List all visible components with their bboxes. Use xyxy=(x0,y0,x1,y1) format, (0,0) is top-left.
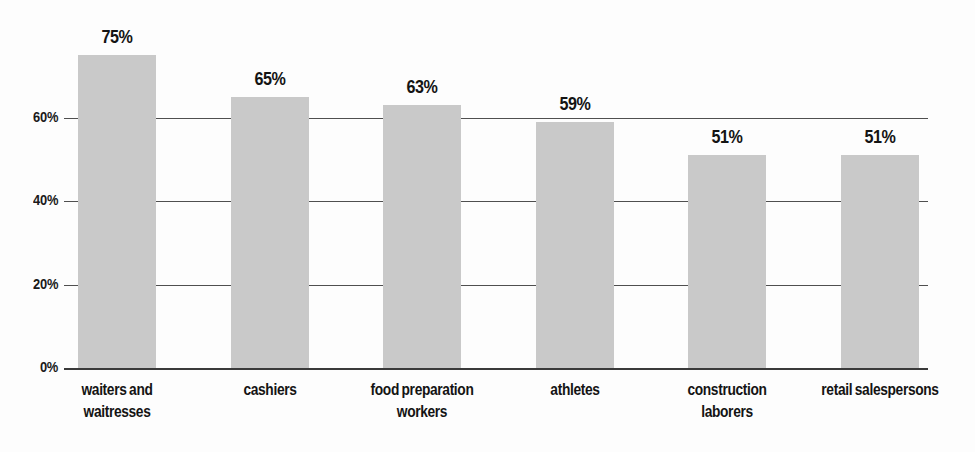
y-axis-tick-label: 0% xyxy=(40,358,58,375)
x-axis-category-label-line: cashiers xyxy=(205,379,334,401)
bar xyxy=(841,155,919,368)
bar xyxy=(688,155,766,368)
gridline xyxy=(64,118,928,119)
y-axis-tick-label: 60% xyxy=(33,108,58,125)
bar-value-label: 63% xyxy=(372,76,472,98)
x-axis-category-label-line: athletes xyxy=(510,379,639,401)
y-axis-tick-label: 20% xyxy=(33,275,58,292)
bar-value-label: 51% xyxy=(829,126,929,148)
x-axis-category-label: cashiers xyxy=(205,379,334,401)
x-axis-category-label-line: construction xyxy=(663,379,792,401)
x-axis-category-label-line: food preparation xyxy=(358,379,487,401)
x-axis-category-label-line: laborers xyxy=(663,401,792,423)
bar xyxy=(231,97,309,368)
x-axis-category-label: constructionlaborers xyxy=(663,379,792,423)
x-axis-category-label: food preparationworkers xyxy=(358,379,487,423)
bar xyxy=(536,122,614,368)
bar-value-label: 59% xyxy=(524,93,624,115)
bar-value-label: 65% xyxy=(219,68,319,90)
x-axis-category-label: waiters andwaitresses xyxy=(53,379,182,423)
x-axis-category-label-line: retail salespersons xyxy=(815,379,944,401)
x-axis-category-label-line: waiters and xyxy=(53,379,182,401)
y-axis-tick-label: 40% xyxy=(33,191,58,208)
x-axis-category-label: retail salespersons xyxy=(815,379,944,401)
x-axis-category-label-line: workers xyxy=(358,401,487,423)
bar-chart: 0%20%40%60% 75%65%63%59%51%51% waiters a… xyxy=(0,0,975,452)
gridline xyxy=(64,201,928,202)
axis-baseline xyxy=(64,368,928,370)
bar-value-label: 51% xyxy=(677,126,777,148)
x-axis-category-label-line: waitresses xyxy=(53,401,182,423)
bar xyxy=(78,55,156,368)
x-axis-category-label: athletes xyxy=(510,379,639,401)
bar xyxy=(383,105,461,368)
bar-value-label: 75% xyxy=(67,26,167,48)
gridline xyxy=(64,285,928,286)
